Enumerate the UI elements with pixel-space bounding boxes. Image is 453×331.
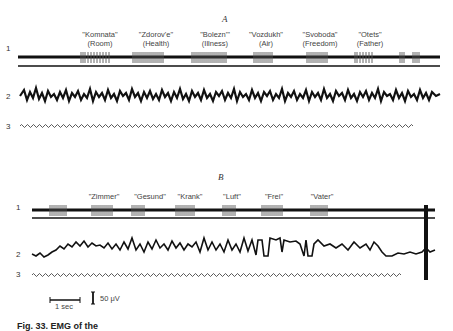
panel-b-trace-3 bbox=[32, 274, 401, 277]
amplitude-scale-bar bbox=[91, 292, 95, 304]
panel-b-trace-2 bbox=[32, 238, 435, 257]
panel-a-trace-3 bbox=[20, 125, 413, 128]
panel-a-trace-2 bbox=[20, 88, 440, 101]
time-scale-bar bbox=[50, 297, 80, 303]
panel-a-trace-1 bbox=[18, 52, 440, 66]
